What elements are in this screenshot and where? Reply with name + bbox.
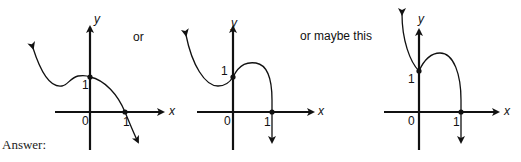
graph-2 bbox=[186, 27, 313, 150]
graph-1-y-intercept-label: 1 bbox=[82, 78, 89, 92]
graph-2-y-intercept-label: 1 bbox=[221, 64, 228, 78]
graph-2-point-x-intercept bbox=[269, 109, 274, 114]
graph-3-point-x-intercept bbox=[458, 109, 463, 114]
answer-label: Answer: bbox=[2, 137, 46, 153]
connector-or-maybe-this: or maybe this bbox=[300, 29, 372, 43]
graph-3 bbox=[384, 14, 498, 150]
graph-1-x-intercept-label: 1 bbox=[123, 115, 130, 129]
graph-2-x-intercept-label: 1 bbox=[264, 115, 271, 129]
graph-1 bbox=[33, 27, 163, 150]
graph-3-origin-label: 0 bbox=[408, 114, 415, 128]
graph-2-y-axis-label: y bbox=[231, 16, 237, 30]
graph-2-origin-label: 0 bbox=[224, 114, 231, 128]
graph-1-y-axis-label: y bbox=[94, 12, 100, 26]
graph-1-x-axis-label: x bbox=[169, 104, 175, 118]
graph-3-y-axis-label: y bbox=[418, 12, 424, 26]
graph-2-point-y-intercept bbox=[230, 74, 235, 79]
graph-3-x-axis-label: x bbox=[504, 104, 510, 118]
graph-3-y-intercept-label: 1 bbox=[408, 72, 415, 86]
graph-1-origin-label: 0 bbox=[82, 114, 89, 128]
connector-or: or bbox=[133, 30, 144, 44]
graph-2-x-axis-label: x bbox=[318, 104, 324, 118]
graph-1-point-x-intercept bbox=[122, 109, 127, 114]
graph-3-point-y-intercept bbox=[416, 68, 421, 73]
graphs-canvas bbox=[0, 0, 521, 162]
graph-3-x-intercept-label: 1 bbox=[453, 115, 460, 129]
